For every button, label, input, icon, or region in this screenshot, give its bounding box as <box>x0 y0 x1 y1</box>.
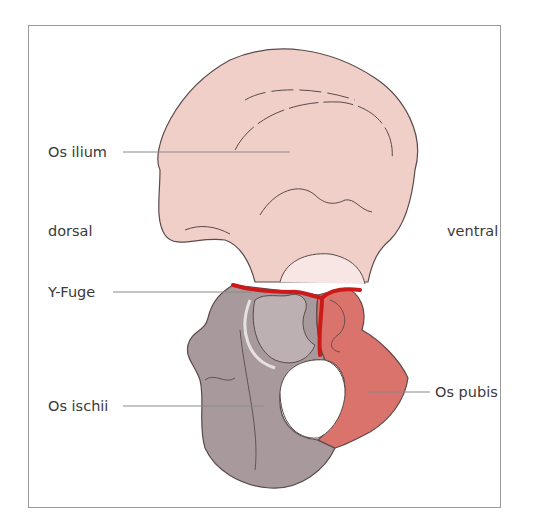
label-ventral: ventral <box>447 224 498 239</box>
label-os-pubis: Os pubis <box>435 385 498 400</box>
label-dorsal: dorsal <box>48 224 93 239</box>
os-ilium-region <box>158 49 418 282</box>
label-y-fuge: Y-Fuge <box>48 285 95 300</box>
hip-bone-illustration <box>0 0 547 530</box>
label-os-ischii: Os ischii <box>48 399 108 414</box>
label-os-ilium: Os ilium <box>48 145 107 160</box>
